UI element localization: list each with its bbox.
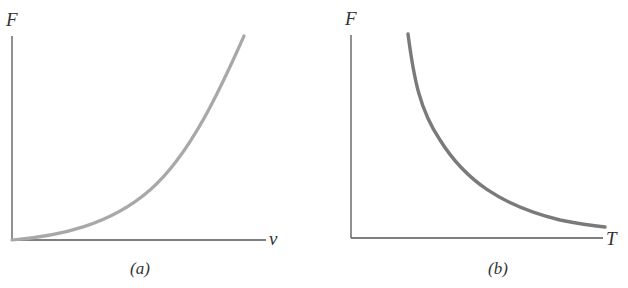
panel-b (351, 34, 605, 238)
curve-a (12, 36, 244, 240)
x-axis-label-b: T (606, 229, 617, 248)
caption-a: (a) (130, 260, 150, 277)
caption-b: (b) (488, 260, 508, 277)
figure-canvas (0, 0, 628, 288)
y-axis-label-b: F (345, 9, 357, 28)
y-axis-label-a: F (6, 10, 18, 29)
panel-a (12, 36, 266, 240)
x-axis-label-a: v (269, 229, 277, 248)
curve-b (408, 34, 605, 227)
